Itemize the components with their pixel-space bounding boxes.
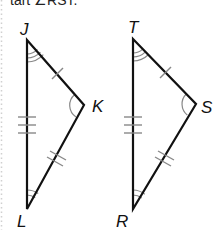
vertex-label-t: T [128, 18, 140, 37]
vertex-label-s: S [201, 98, 213, 117]
angle-s-arc [182, 94, 187, 115]
vertex-label-r: R [116, 212, 128, 230]
congruent-triangles-diagram: J K L T S R [0, 0, 224, 230]
vertex-label-k: K [92, 97, 104, 116]
triangle-jkl: J K L [17, 20, 104, 230]
vertex-label-j: J [19, 20, 29, 39]
angle-k-arc [70, 95, 76, 118]
triangle-tsr: T S R [116, 18, 213, 230]
vertex-label-l: L [17, 212, 26, 230]
triangle-tsr-outline [133, 39, 196, 209]
